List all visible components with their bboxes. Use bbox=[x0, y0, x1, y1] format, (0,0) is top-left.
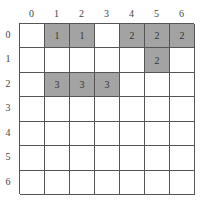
grid-cell bbox=[120, 171, 145, 195]
grid-cell bbox=[95, 97, 120, 121]
row-label: 1 bbox=[2, 53, 14, 65]
col-label: 4 bbox=[119, 8, 144, 20]
grid-cell bbox=[170, 97, 195, 121]
grid-cell bbox=[70, 171, 95, 195]
grid-cell bbox=[20, 146, 45, 170]
col-label: 3 bbox=[94, 8, 119, 20]
grid-cell bbox=[170, 73, 195, 97]
grid-cell: 2 bbox=[145, 48, 170, 72]
grid-cell bbox=[145, 73, 170, 97]
row-label: 5 bbox=[2, 151, 14, 163]
grid-cell bbox=[170, 122, 195, 146]
row-label: 3 bbox=[2, 102, 14, 114]
grid-cell bbox=[45, 97, 70, 121]
grid-cell bbox=[170, 146, 195, 170]
grid-cell bbox=[95, 24, 120, 48]
grid-cell bbox=[120, 146, 145, 170]
grid-board: 112222333 bbox=[19, 23, 194, 194]
grid-cell bbox=[95, 48, 120, 72]
col-label: 5 bbox=[144, 8, 169, 20]
grid-cell bbox=[20, 73, 45, 97]
grid-cell: 3 bbox=[95, 73, 120, 97]
col-label: 2 bbox=[69, 8, 94, 20]
grid-cell: 2 bbox=[145, 24, 170, 48]
grid-cell: 2 bbox=[120, 24, 145, 48]
grid-cell: 3 bbox=[45, 73, 70, 97]
grid-cell bbox=[95, 146, 120, 170]
grid-cell bbox=[145, 171, 170, 195]
grid-cell bbox=[70, 97, 95, 121]
grid-cell bbox=[45, 171, 70, 195]
grid-cell: 1 bbox=[70, 24, 95, 48]
grid-cell bbox=[120, 73, 145, 97]
grid-cell: 2 bbox=[170, 24, 195, 48]
grid-cell bbox=[45, 146, 70, 170]
grid-cell bbox=[120, 122, 145, 146]
grid-cell bbox=[95, 122, 120, 146]
grid-cell bbox=[145, 146, 170, 170]
grid-cell bbox=[170, 171, 195, 195]
row-label: 0 bbox=[2, 29, 14, 41]
grid-cell bbox=[70, 122, 95, 146]
grid-cell bbox=[20, 122, 45, 146]
row-label: 2 bbox=[2, 78, 14, 90]
grid-cell bbox=[20, 97, 45, 121]
grid-cell bbox=[170, 48, 195, 72]
grid-cell: 3 bbox=[70, 73, 95, 97]
grid-cell bbox=[20, 48, 45, 72]
row-label: 6 bbox=[2, 176, 14, 188]
grid-cell bbox=[45, 122, 70, 146]
grid-cell bbox=[120, 97, 145, 121]
col-label: 6 bbox=[169, 8, 194, 20]
col-label: 0 bbox=[19, 8, 44, 20]
grid-cell bbox=[95, 171, 120, 195]
grid-cell bbox=[45, 48, 70, 72]
grid-cell: 1 bbox=[45, 24, 70, 48]
grid-cell bbox=[20, 171, 45, 195]
grid-cell bbox=[120, 48, 145, 72]
grid-cell bbox=[20, 24, 45, 48]
grid-cell bbox=[70, 48, 95, 72]
col-label: 1 bbox=[44, 8, 69, 20]
row-label: 4 bbox=[2, 127, 14, 139]
grid-cell bbox=[70, 146, 95, 170]
grid-cell bbox=[145, 97, 170, 121]
grid-cell bbox=[145, 122, 170, 146]
